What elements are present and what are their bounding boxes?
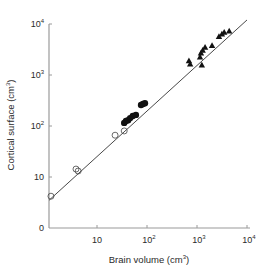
y-tick-label: 10 (34, 172, 44, 182)
x-axis-title: Brain volume (cm3) (109, 254, 189, 265)
data-points (48, 28, 232, 199)
ticks: 10102103104010102103104 (31, 18, 257, 245)
y-tick-label: 103 (31, 69, 45, 80)
fit-line (49, 20, 247, 200)
y-tick-label: 104 (31, 18, 45, 29)
y-tick-label: 0 (39, 223, 44, 233)
filled-circle-point (142, 100, 148, 106)
axes (49, 24, 250, 228)
open-circle-point (121, 128, 127, 134)
triangle-point (209, 42, 215, 48)
filled-circle-point (133, 112, 139, 118)
fit-line-group (49, 20, 247, 200)
x-tick-label: 104 (242, 234, 256, 245)
triangle-point (226, 28, 232, 34)
x-tick-label: 103 (192, 234, 206, 245)
series-triangles (186, 28, 233, 68)
x-tick-label: 10 (92, 235, 102, 245)
series-open-circles (48, 128, 127, 199)
y-axis-title: Cortical surface (cm3) (5, 80, 16, 171)
open-circle-point (112, 132, 118, 138)
x-tick-label: 102 (142, 234, 156, 245)
chart: 10102103104010102103104 Brain volume (cm… (0, 0, 273, 273)
triangle-point (186, 58, 192, 64)
y-tick-label: 102 (31, 120, 45, 131)
triangle-point (202, 44, 208, 50)
